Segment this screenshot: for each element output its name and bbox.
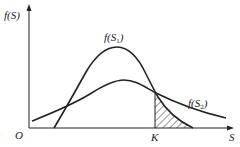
density-diagram: f(S) O K S f(S1) f(S2) — [0, 0, 240, 147]
diagram-canvas: f(S) O K S f(S1) f(S2) — [0, 0, 240, 147]
origin-label: O — [15, 129, 23, 141]
y-axis-label: f(S) — [4, 9, 20, 22]
x-axis-arrow-icon — [227, 126, 234, 131]
curve-f-s2-label: f(S2) — [188, 97, 208, 111]
y-axis-arrow-icon — [27, 4, 32, 11]
k-label: K — [150, 131, 159, 143]
x-axis-label: S — [229, 131, 235, 143]
curve-f-s1-label: f(S1) — [104, 31, 124, 45]
